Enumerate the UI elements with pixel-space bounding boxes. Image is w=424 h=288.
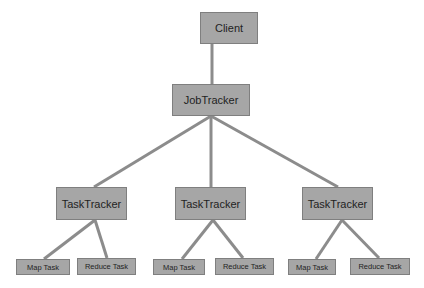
node-map3: Map Task [288, 259, 336, 275]
node-label: Map Task [296, 263, 328, 272]
node-tt1: TaskTracker [56, 187, 127, 220]
node-label: TaskTracker [181, 198, 241, 210]
node-tt2: TaskTracker [175, 187, 246, 220]
node-label: TaskTracker [308, 198, 368, 210]
node-map2: Map Task [153, 259, 205, 275]
edge-tt2-to-map2 [182, 220, 213, 259]
edge-tt1-to-reduce1 [95, 220, 107, 258]
node-label: Map Task [27, 263, 59, 272]
node-map1: Map Task [16, 259, 70, 275]
edge-tt3-to-reduce3 [342, 220, 379, 258]
edge-tt2-to-reduce2 [213, 220, 243, 258]
node-reduce1: Reduce Task [77, 258, 136, 275]
edge-jobtracker-to-tt3 [211, 116, 338, 187]
edge-tt3-to-map3 [316, 220, 342, 259]
node-label: Map Task [163, 263, 195, 272]
node-reduce3: Reduce Task [350, 258, 410, 275]
edge-jobtracker-to-tt1 [94, 116, 211, 187]
node-label: Reduce Task [223, 262, 266, 271]
node-client: Client [200, 12, 258, 44]
hadoop-architecture-diagram: ClientJobTrackerTaskTrackerTaskTrackerTa… [0, 0, 424, 288]
node-jobtracker: JobTracker [172, 84, 250, 116]
node-label: TaskTracker [62, 198, 122, 210]
node-label: Client [215, 22, 243, 34]
node-label: Reduce Task [85, 262, 128, 271]
node-tt3: TaskTracker [302, 187, 373, 220]
node-label: Reduce Task [358, 262, 401, 271]
node-label: JobTracker [184, 94, 239, 106]
node-reduce2: Reduce Task [215, 258, 274, 275]
edge-tt1-to-map1 [44, 220, 95, 259]
